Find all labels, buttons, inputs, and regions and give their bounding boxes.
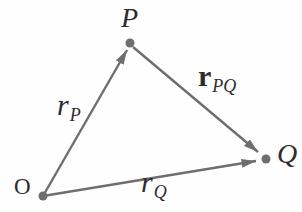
vector-rPQ-line (133, 47, 258, 152)
vector-rQ-label-subscript: Q (154, 182, 167, 202)
vector-rP-line (43, 50, 127, 196)
vector-labels-layer: rPrQrPQ (57, 59, 236, 202)
point-P-label: P (120, 2, 138, 33)
vector-rQ-label: rQ (141, 165, 167, 202)
point-Q-label: Q (277, 138, 297, 169)
figure-container: OPQ rPrQrPQ (0, 0, 302, 212)
point-O-label: O (14, 174, 31, 199)
point-O-dot (39, 192, 48, 201)
vector-rP-label: rP (57, 88, 81, 125)
vector-diagram: OPQ rPrQrPQ (0, 0, 302, 212)
vector-rPQ-label: rPQ (198, 59, 236, 96)
point-Q-dot (262, 155, 271, 164)
point-P-dot (126, 39, 135, 48)
vector-rP-label-subscript: P (69, 105, 81, 125)
vector-rPQ-label-subscript: PQ (211, 76, 236, 96)
